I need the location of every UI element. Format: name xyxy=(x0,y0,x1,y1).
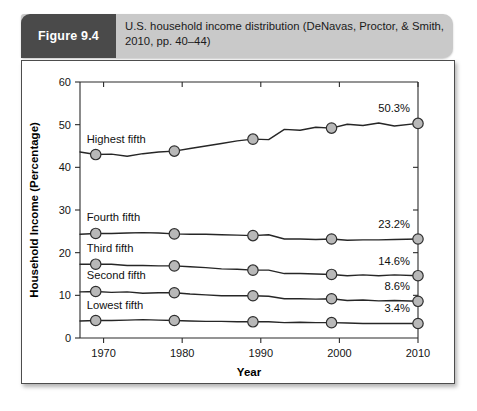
data-point-marker xyxy=(169,288,179,298)
figure-number-tag: Figure 9.4 xyxy=(21,14,116,58)
y-tick-label: 10 xyxy=(59,289,71,301)
chart-panel: 010203040506019701980199020002010YearHou… xyxy=(21,60,455,384)
data-point-marker xyxy=(326,294,336,304)
y-tick-label: 50 xyxy=(59,119,71,131)
series-value-second-fifth: 8.6% xyxy=(385,280,411,292)
data-point-marker xyxy=(169,229,179,239)
y-tick-label: 30 xyxy=(59,204,71,216)
figure-caption-text: U.S. household income distribution (DeNa… xyxy=(125,19,447,48)
data-point-marker xyxy=(91,259,101,269)
data-point-marker xyxy=(91,286,101,296)
series-value-fourth-fifth: 23.2% xyxy=(378,218,410,230)
data-point-marker xyxy=(326,269,336,279)
income-distribution-line-chart: 010203040506019701980199020002010YearHou… xyxy=(22,61,452,381)
data-point-marker xyxy=(326,317,336,327)
data-point-marker xyxy=(248,291,258,301)
data-point-marker xyxy=(413,234,423,244)
data-point-marker xyxy=(413,271,423,281)
x-tick-label: 1970 xyxy=(91,347,115,359)
data-point-marker xyxy=(248,134,258,144)
data-point-marker xyxy=(413,118,423,128)
series-label-highest-fifth: Highest fifth xyxy=(87,133,146,145)
data-point-marker xyxy=(91,149,101,159)
y-tick-label: 60 xyxy=(59,76,71,88)
data-point-marker xyxy=(169,315,179,325)
y-tick-label: 40 xyxy=(59,161,71,173)
data-point-marker xyxy=(91,315,101,325)
figure-container: Figure 9.4 U.S. household income distrib… xyxy=(0,0,477,411)
data-point-marker xyxy=(413,318,423,328)
data-point-marker xyxy=(169,261,179,271)
y-axis-title: Household Income (Percentage) xyxy=(28,122,40,298)
x-tick-label: 1990 xyxy=(249,347,273,359)
data-point-marker xyxy=(248,317,258,327)
data-point-marker xyxy=(326,123,336,133)
data-point-marker xyxy=(91,228,101,238)
data-point-marker xyxy=(248,265,258,275)
x-axis-title: Year xyxy=(237,366,262,378)
x-tick-label: 1980 xyxy=(170,347,194,359)
series-label-third-fifth: Third fifth xyxy=(87,242,134,254)
series-value-highest-fifth: 50.3% xyxy=(378,102,410,114)
data-point-marker xyxy=(413,296,423,306)
y-tick-label: 20 xyxy=(59,247,71,259)
x-tick-label: 2000 xyxy=(327,347,351,359)
series-label-fourth-fifth: Fourth fifth xyxy=(87,211,140,223)
x-tick-label: 2010 xyxy=(406,347,430,359)
series-label-second-fifth: Second fifth xyxy=(87,269,146,281)
series-label-lowest-fifth: Lowest fifth xyxy=(87,299,144,311)
data-point-marker xyxy=(326,234,336,244)
figure-caption-bar: Figure 9.4 U.S. household income distrib… xyxy=(21,14,453,58)
series-value-third-fifth: 14.6% xyxy=(378,255,410,267)
series-value-lowest-fifth: 3.4% xyxy=(385,302,411,314)
data-point-marker xyxy=(248,230,258,240)
data-point-marker xyxy=(169,146,179,156)
y-tick-label: 0 xyxy=(65,332,71,344)
